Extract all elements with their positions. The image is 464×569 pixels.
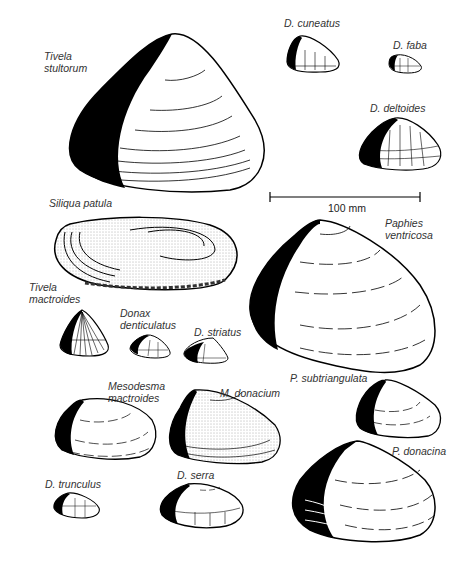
label-line: D. faba bbox=[393, 39, 427, 51]
label-line: D. deltoides bbox=[370, 102, 425, 114]
shell-mesodesma-mactroides bbox=[55, 399, 155, 460]
label-tivela-mactroides: Tivela mactroides bbox=[29, 281, 80, 305]
label-line: Mesodesma bbox=[108, 380, 165, 392]
label-mesodesma-mactroides: Mesodesma mactroides bbox=[108, 380, 165, 404]
label-line: Donax bbox=[120, 307, 176, 319]
label-p-subtriangulata: P. subtriangulata bbox=[290, 372, 367, 384]
shell-paphies-ventricosa bbox=[250, 220, 435, 372]
label-line: mactroides bbox=[29, 293, 80, 305]
label-d-deltoides: D. deltoides bbox=[370, 102, 425, 114]
label-d-trunculus: D. trunculus bbox=[45, 478, 101, 490]
shell-p-subtriangulata bbox=[356, 380, 440, 438]
scale-bar bbox=[270, 192, 420, 202]
label-d-faba: D. faba bbox=[393, 39, 427, 51]
label-line: M. donacium bbox=[220, 387, 280, 399]
label-line: Siliqua patula bbox=[49, 197, 112, 209]
label-line: mactroides bbox=[108, 392, 165, 404]
label-line: denticulatus bbox=[120, 319, 176, 331]
label-paphies-ventricosa: Paphies ventricosa bbox=[385, 217, 433, 241]
shell-d-trunculus bbox=[54, 493, 99, 518]
label-line: Tivela bbox=[44, 50, 87, 62]
shell-d-cuneatus bbox=[287, 36, 339, 72]
label-donax-denticulatus: Donax denticulatus bbox=[120, 307, 176, 331]
label-line: Tivela bbox=[29, 281, 80, 293]
label-line: D. cuneatus bbox=[284, 17, 340, 29]
shell-m-donacium bbox=[170, 390, 281, 464]
label-d-cuneatus: D. cuneatus bbox=[284, 17, 340, 29]
label-line: Paphies bbox=[385, 217, 433, 229]
shell-tivela-mactroides bbox=[60, 310, 108, 356]
label-line: D. striatus bbox=[194, 326, 241, 338]
shell-d-serra bbox=[160, 484, 243, 528]
label-m-donacium: M. donacium bbox=[220, 387, 280, 399]
label-line: ventricosa bbox=[385, 229, 433, 241]
shell-d-deltoides bbox=[359, 118, 440, 170]
shell-d-striatus bbox=[184, 338, 228, 363]
label-line: D. trunculus bbox=[45, 478, 101, 490]
label-d-serra: D. serra bbox=[177, 469, 214, 481]
label-d-striatus: D. striatus bbox=[194, 326, 241, 338]
label-line: P. subtriangulata bbox=[290, 372, 367, 384]
shell-tivela-stultorum bbox=[70, 34, 265, 192]
label-line: P. donacina bbox=[392, 445, 446, 457]
scale-bar-label: 100 mm bbox=[328, 202, 366, 214]
label-siliqua-patula: Siliqua patula bbox=[49, 197, 112, 209]
shell-donax-denticulatus bbox=[130, 335, 170, 358]
shell-siliqua-patula bbox=[55, 217, 237, 289]
label-line: D. serra bbox=[177, 469, 214, 481]
shell-d-faba bbox=[389, 55, 421, 73]
label-line: stultorum bbox=[44, 62, 87, 74]
label-p-donacina: P. donacina bbox=[392, 445, 446, 457]
label-tivela-stultorum: Tivela stultorum bbox=[44, 50, 87, 74]
